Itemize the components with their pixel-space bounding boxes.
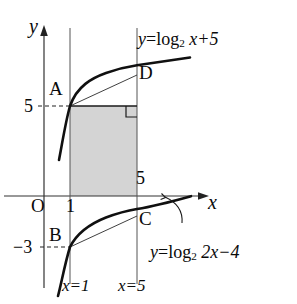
point-label-D: D (139, 63, 153, 82)
y-axis-label: y (29, 16, 38, 36)
x-axis-label: x (208, 192, 217, 212)
equation-label-upper: y=log2 x+5 (138, 30, 218, 50)
vertical-line-label-x5: x=5 (118, 277, 146, 294)
equation-upper-lhs: y (138, 29, 146, 49)
x-tick-1: 1 (66, 197, 75, 215)
shaded-region (70, 106, 137, 196)
equation-upper-equals: = (146, 29, 156, 49)
vertical-line-label-x1: x=1 (62, 277, 90, 294)
origin-label: O (31, 196, 45, 215)
chord-BC (70, 216, 137, 247)
equation-lower-arg: 2x−4 (197, 242, 240, 262)
y-tick-5: 5 (24, 97, 33, 115)
y-tick-minus3: −3 (13, 238, 32, 256)
equation-lower-fn: log (168, 242, 191, 262)
y-axis-arrow (40, 25, 48, 36)
equation-upper-arg: x+5 (185, 29, 219, 49)
point-label-C: C (139, 209, 152, 228)
math-figure: y x O 5 −3 1 5 A B C D y=log2 x+5 y=log2… (0, 0, 297, 304)
equation-label-lower: y=log2 2x−4 (150, 243, 239, 263)
equation-upper-fn: log (156, 29, 179, 49)
point-label-A: A (49, 79, 63, 98)
equation-lower-lhs: y (150, 242, 158, 262)
equation-lower-equals: = (158, 242, 168, 262)
point-label-B: B (49, 225, 62, 244)
x-tick-5: 5 (136, 169, 145, 187)
